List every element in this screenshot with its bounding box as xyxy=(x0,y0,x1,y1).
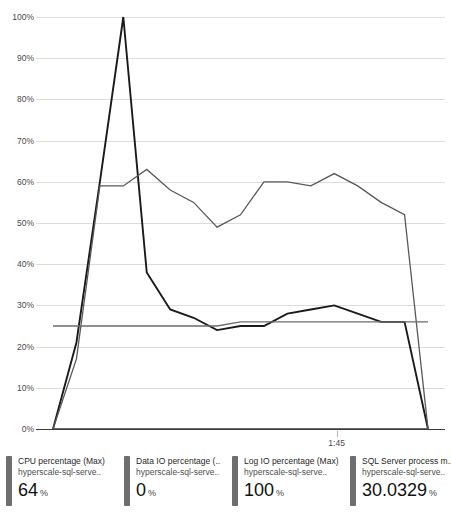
legend-item[interactable]: Data IO percentage (..hyperscale-sql-ser… xyxy=(118,456,226,510)
legend-color-swatch xyxy=(6,456,12,506)
legend-value-row: 0% xyxy=(136,480,220,500)
legend-color-swatch xyxy=(124,456,130,506)
legend-resource-name: hyperscale-sql-serve.. xyxy=(136,467,220,478)
legend-metric-value: 100 xyxy=(244,480,274,500)
legend-metric-value: 0 xyxy=(136,480,146,500)
legend-resource-name: hyperscale-sql-serve.. xyxy=(18,467,105,478)
legend-metric-value: 30.0329 xyxy=(362,480,427,500)
legend-value-row: 30.0329% xyxy=(362,480,451,500)
legend-color-swatch xyxy=(232,456,238,506)
legend-metric-name: CPU percentage (Max) xyxy=(18,456,105,467)
chart-legend: CPU percentage (Max)hyperscale-sql-serve… xyxy=(0,452,451,514)
series-line xyxy=(53,17,428,429)
legend-text-block: SQL Server process m..hyperscale-sql-ser… xyxy=(362,456,451,500)
legend-metric-unit: % xyxy=(276,488,284,498)
legend-metric-name: Log IO percentage (Max) xyxy=(244,456,339,467)
legend-metric-name: SQL Server process m.. xyxy=(362,456,451,467)
legend-value-row: 100% xyxy=(244,480,339,500)
legend-metric-unit: % xyxy=(148,488,156,498)
chart-plot-region: 0%10%20%30%40%50%60%70%80%90%100% 1:45 xyxy=(0,0,451,452)
legend-metric-unit: % xyxy=(40,488,48,498)
legend-resource-name: hyperscale-sql-serve.. xyxy=(244,467,339,478)
legend-text-block: Data IO percentage (..hyperscale-sql-ser… xyxy=(136,456,220,500)
legend-item[interactable]: CPU percentage (Max)hyperscale-sql-serve… xyxy=(0,456,118,510)
legend-text-block: CPU percentage (Max)hyperscale-sql-serve… xyxy=(18,456,105,500)
legend-metric-value: 64 xyxy=(18,480,38,500)
legend-value-row: 64% xyxy=(18,480,105,500)
legend-color-swatch xyxy=(350,456,356,506)
metrics-chart-panel: 0%10%20%30%40%50%60%70%80%90%100% 1:45 C… xyxy=(0,0,451,514)
legend-metric-unit: % xyxy=(429,488,437,498)
legend-text-block: Log IO percentage (Max)hyperscale-sql-se… xyxy=(244,456,339,500)
chart-series-layer xyxy=(0,0,451,452)
legend-resource-name: hyperscale-sql-serve.. xyxy=(362,467,451,478)
legend-item[interactable]: SQL Server process m..hyperscale-sql-ser… xyxy=(344,456,451,510)
legend-item[interactable]: Log IO percentage (Max)hyperscale-sql-se… xyxy=(226,456,344,510)
series-line xyxy=(53,169,428,429)
legend-metric-name: Data IO percentage (.. xyxy=(136,456,220,467)
